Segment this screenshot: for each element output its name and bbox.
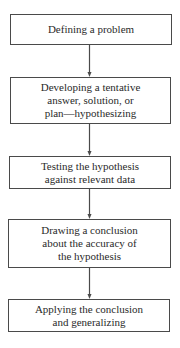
flow-step-drawing-conclusion: Drawing a conclusion about the accuracy … <box>8 219 171 268</box>
flow-step-label: Drawing a conclusion about the accuracy … <box>41 224 138 263</box>
flow-step-label: Testing the hypothesis against relevant … <box>41 160 139 186</box>
flow-step-label: Applying the conclusion and generalizing <box>35 303 143 329</box>
flow-step-defining-problem: Defining a problem <box>10 14 172 45</box>
flow-step-testing-hypothesis: Testing the hypothesis against relevant … <box>9 156 171 189</box>
flow-step-label: Developing a tentative answer, solution,… <box>41 81 141 120</box>
cropped-header-text <box>30 0 150 2</box>
flow-step-applying-conclusion: Applying the conclusion and generalizing <box>8 299 170 332</box>
flow-step-hypothesizing: Developing a tentative answer, solution,… <box>10 77 171 124</box>
flow-step-label: Defining a problem <box>48 23 134 36</box>
